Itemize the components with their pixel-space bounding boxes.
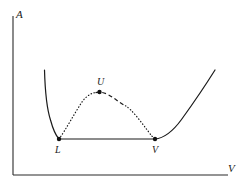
point-label-L: L (55, 145, 61, 155)
curve-stable-right-branch (155, 70, 215, 139)
y-axis-label: A (16, 9, 23, 20)
curve-metastable-left-branch (59, 93, 96, 139)
curve-unstable-branch (96, 92, 126, 106)
plot-canvas (0, 0, 245, 191)
point-marker-V (153, 137, 157, 141)
x-axis-label: V (228, 163, 235, 174)
point-marker-U (97, 90, 101, 94)
point-label-V: V (152, 145, 158, 155)
free-energy-volume-figure: A V L U V (0, 0, 245, 191)
curve-metastable-right-branch (126, 106, 156, 139)
curve-stable-left-branch (45, 70, 60, 139)
point-label-U: U (97, 77, 104, 87)
point-marker-L (57, 137, 61, 141)
